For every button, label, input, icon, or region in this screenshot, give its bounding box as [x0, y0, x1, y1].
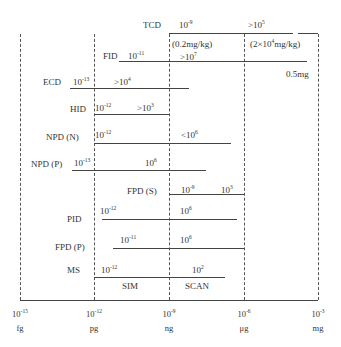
npd-n-range: <106	[181, 130, 198, 140]
pid-range: 106	[180, 206, 192, 216]
detector-label-pid: PID	[67, 214, 82, 224]
detector-label-fid: FID	[103, 51, 118, 61]
ms-bar	[94, 277, 225, 278]
fpd-p-bar	[113, 248, 244, 249]
x-axis-line	[20, 300, 318, 301]
npd-n-bar	[94, 143, 231, 144]
detector-label-ms: MS	[67, 265, 80, 275]
gridline-ng	[169, 34, 170, 300]
tcd-note-left: (0.2mg/kg)	[172, 39, 212, 49]
tcd-bar	[169, 33, 293, 34]
fid-min: 10-11	[128, 51, 144, 61]
tcd-min: 10-9	[179, 20, 193, 30]
detector-label-fpd-s: FPD (S)	[127, 186, 157, 196]
x-unit-ug: μg	[224, 323, 264, 333]
npd-p-bar	[72, 170, 206, 171]
pid-min: 10-12	[100, 206, 116, 216]
npd-p-min: 10-13	[74, 158, 90, 168]
gridline-mg	[318, 34, 319, 300]
fpd-s-bar	[169, 194, 244, 195]
detector-label-fpd-p: FPD (P)	[55, 242, 85, 252]
detector-label-npd-p: NPD (P)	[31, 159, 62, 169]
tcd-bar-2	[298, 33, 318, 34]
ecd-range: >104	[114, 77, 131, 87]
detector-label-ecd: ECD	[43, 77, 61, 87]
x-tick-mg: 10-3	[298, 309, 338, 319]
x-unit-pg: pg	[74, 323, 114, 333]
gridline-ug	[244, 34, 245, 300]
x-unit-mg: mg	[298, 323, 338, 333]
x-unit-fg: fg	[0, 323, 40, 333]
fpd-p-range: 106	[180, 235, 192, 245]
ecd-min: 10-13	[73, 77, 89, 87]
hid-bar	[94, 114, 169, 115]
detector-label-npd-n: NPD (N)	[46, 132, 79, 142]
ms-range: 102	[192, 265, 204, 275]
tcd-note-right: (2×104mg/kg)	[250, 39, 300, 49]
ms-min: 10-12	[101, 265, 117, 275]
tcd-range: >105	[248, 20, 265, 30]
ms-mode-sim: SIM	[122, 281, 138, 291]
hid-range: >103	[137, 103, 154, 113]
detector-label-hid: HID	[70, 104, 86, 114]
x-tick-pg: 10-12	[74, 309, 114, 319]
fid-bar	[119, 61, 307, 62]
x-tick-ug: 10-6	[224, 309, 264, 319]
fid-upper-note: 0.5mg	[286, 69, 309, 79]
x-tick-fg: 10-15	[0, 309, 40, 319]
x-tick-ng: 10-9	[149, 309, 189, 319]
npd-p-range: 106	[145, 158, 157, 168]
gridline-pg	[94, 34, 95, 300]
detector-range-diagram: TCD 10-9 >105 (0.2mg/kg) (2×104mg/kg) FI…	[0, 0, 341, 347]
ecd-bar	[70, 88, 189, 89]
x-unit-ng: ng	[149, 323, 189, 333]
gridline-fg	[20, 34, 21, 300]
ms-mode-scan: SCAN	[185, 281, 209, 291]
hid-min: 10-12	[95, 103, 111, 113]
pid-bar	[102, 219, 237, 220]
fpd-p-min: 10-11	[120, 235, 136, 245]
npd-n-min: 10-12	[95, 130, 111, 140]
detector-label-tcd: TCD	[143, 20, 161, 30]
